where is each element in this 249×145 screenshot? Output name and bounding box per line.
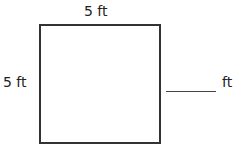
answer-unit-label: ft [222,74,232,90]
left-side-label: 5 ft [3,74,27,90]
answer-blank-line[interactable] [166,91,216,92]
top-side-label: 5 ft [84,3,108,19]
square-shape [39,24,161,144]
